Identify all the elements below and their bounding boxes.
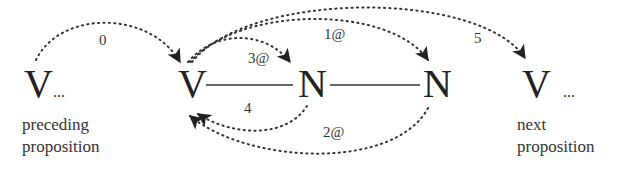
caption-preceding-line2: proposition [22, 136, 99, 158]
ellipsis-next: ... [563, 83, 575, 101]
arc-1at [190, 19, 428, 62]
arc-label-1at: 1@ [324, 26, 345, 43]
node-n1: N [298, 64, 327, 104]
arc-2at [190, 108, 428, 154]
arc-label-2at: 2@ [323, 124, 344, 141]
arc-label-3at: 3@ [248, 50, 269, 67]
arc-label-0: 0 [99, 32, 107, 49]
arc-label-5: 5 [474, 30, 482, 47]
caption-next: next proposition [517, 114, 594, 158]
node-v-preceding: V [24, 64, 53, 104]
caption-preceding-line1: preceding [22, 114, 99, 136]
arc-0 [36, 23, 180, 62]
caption-next-line1: next [517, 114, 594, 136]
node-v-next: V [522, 64, 551, 104]
node-n2: N [423, 64, 452, 104]
arc-4 [198, 106, 307, 131]
ellipsis-preceding: ... [53, 83, 65, 101]
caption-next-line2: proposition [517, 136, 594, 158]
caption-preceding: preceding proposition [22, 114, 99, 158]
dependency-diagram: V ... V N N V ... preceding proposition … [0, 0, 627, 172]
arc-label-4: 4 [244, 100, 252, 117]
node-v-main: V [178, 64, 207, 104]
